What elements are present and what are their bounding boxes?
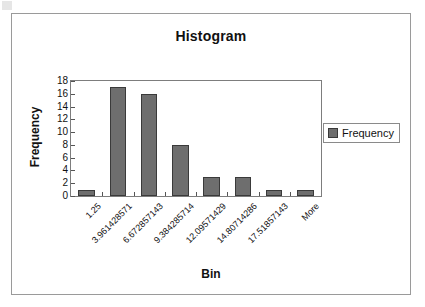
chart-title: Histogram xyxy=(12,28,410,44)
bar-slot xyxy=(290,81,321,196)
chart-legend[interactable]: Frequency xyxy=(323,123,400,143)
y-tick-label: 6 xyxy=(46,153,68,163)
frequency-color-swatch xyxy=(328,128,338,138)
y-axis-title-text: Frequency xyxy=(28,107,42,168)
y-tick-mark xyxy=(71,132,75,133)
bar[interactable] xyxy=(78,190,95,196)
x-tick-label: More xyxy=(300,201,322,223)
x-tick-mark xyxy=(102,192,103,196)
y-tick-label: 0 xyxy=(46,191,68,201)
legend-label-frequency: Frequency xyxy=(342,127,394,139)
bar-slot xyxy=(165,81,196,196)
bar[interactable] xyxy=(141,94,158,196)
x-tick-mark xyxy=(227,192,228,196)
x-tick-mark xyxy=(259,192,260,196)
scan-artifact xyxy=(2,1,12,10)
x-tick-label: 1.25 xyxy=(83,201,102,220)
y-tick-mark xyxy=(71,107,75,108)
x-tick-mark xyxy=(196,192,197,196)
x-axis-tick-labels: 1.253.9614285716.6728571439.38428571412.… xyxy=(70,197,322,267)
y-tick-mark xyxy=(71,170,75,171)
y-tick-label: 2 xyxy=(46,178,68,188)
y-tick-label: 16 xyxy=(46,89,68,99)
bar[interactable] xyxy=(297,190,314,196)
bar-slot xyxy=(71,81,102,196)
bar-series xyxy=(71,81,321,196)
histogram-chart[interactable]: Histogram Frequency 181614121086420 1.25… xyxy=(11,13,411,295)
bar-slot xyxy=(134,81,165,196)
x-tick-mark xyxy=(134,192,135,196)
bar-slot xyxy=(196,81,227,196)
x-tick-mark xyxy=(290,192,291,196)
y-tick-mark xyxy=(71,145,75,146)
y-tick-mark xyxy=(71,94,75,95)
bar[interactable] xyxy=(172,145,189,196)
y-tick-mark xyxy=(71,183,75,184)
y-axis-tick-labels: 181614121086420 xyxy=(46,74,68,200)
bar[interactable] xyxy=(110,87,127,196)
y-tick-mark xyxy=(71,119,75,120)
y-tick-mark xyxy=(71,158,75,159)
bar[interactable] xyxy=(203,177,220,196)
y-tick-label: 8 xyxy=(46,140,68,150)
y-tick-mark xyxy=(71,81,75,82)
x-axis-title: Bin xyxy=(12,267,410,281)
plot-area xyxy=(70,80,322,197)
bar-slot xyxy=(259,81,290,196)
y-tick-label: 12 xyxy=(46,114,68,124)
x-tick-mark xyxy=(165,192,166,196)
plot-inner xyxy=(71,81,321,196)
y-axis-title: Frequency xyxy=(26,76,44,198)
y-tick-label: 18 xyxy=(46,76,68,86)
y-tick-label: 4 xyxy=(46,165,68,175)
bar-slot xyxy=(102,81,133,196)
bar[interactable] xyxy=(235,177,252,196)
bar-slot xyxy=(227,81,258,196)
y-tick-label: 14 xyxy=(46,102,68,112)
y-tick-label: 10 xyxy=(46,127,68,137)
bar[interactable] xyxy=(266,190,283,196)
